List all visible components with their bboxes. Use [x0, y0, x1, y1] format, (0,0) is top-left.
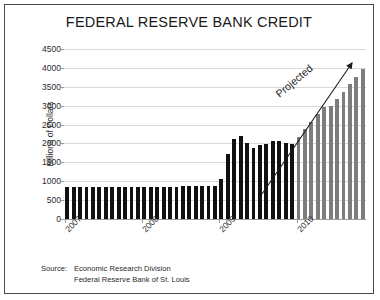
bar — [162, 187, 166, 219]
bar — [354, 77, 358, 219]
source-note: Source:Economic Research Division Federa… — [41, 263, 190, 285]
y-axis-tick-label: 4500 — [21, 44, 61, 54]
y-axis-tick-label: 1500 — [21, 157, 61, 167]
bar — [290, 144, 294, 219]
bar — [104, 187, 108, 219]
bar — [252, 148, 256, 219]
y-axis-tick-label: 2500 — [21, 120, 61, 130]
bar — [361, 69, 365, 219]
y-axis-tick-label: 1000 — [21, 176, 61, 186]
y-axis-tick-label: 3000 — [21, 101, 61, 111]
bar — [213, 186, 217, 219]
chart-frame: FEDERAL RESERVE BANK CREDIT Billions of … — [4, 4, 374, 294]
chart-title: FEDERAL RESERVE BANK CREDIT — [5, 14, 373, 30]
bar — [136, 187, 140, 219]
y-axis-tick-label: 0 — [21, 214, 61, 224]
bar — [226, 154, 230, 219]
bar — [97, 187, 101, 219]
bar — [264, 144, 268, 219]
bar — [316, 114, 320, 219]
source-label: Source: — [41, 263, 74, 274]
y-axis-tick-label: 3500 — [21, 82, 61, 92]
bar — [207, 186, 211, 219]
source-line-2: Federal Reserve Bank of St. Louis — [74, 274, 190, 285]
bar — [175, 187, 179, 219]
bar — [239, 136, 243, 219]
bar — [200, 186, 204, 219]
bar — [168, 187, 172, 219]
bar — [142, 187, 146, 219]
bar — [297, 137, 301, 219]
bar — [329, 106, 333, 219]
bar — [194, 186, 198, 219]
bar — [85, 187, 89, 219]
bar — [123, 187, 127, 219]
bar — [342, 92, 346, 219]
bar — [65, 187, 69, 219]
bar — [219, 179, 223, 219]
x-axis-tick-mark — [297, 219, 298, 223]
x-axis — [64, 219, 366, 220]
y-axis-tick-label: 2000 — [21, 138, 61, 148]
bar — [187, 186, 191, 219]
bar — [271, 141, 275, 219]
bar — [232, 139, 236, 219]
bar — [309, 122, 313, 219]
bar — [258, 145, 262, 219]
bar — [335, 99, 339, 219]
source-line-1: Economic Research Division — [74, 264, 171, 273]
bar — [284, 143, 288, 219]
bar — [155, 187, 159, 219]
y-axis-tick-label: 4000 — [21, 63, 61, 73]
bar — [277, 141, 281, 219]
bar — [181, 186, 185, 219]
plot-area: Billions of Dollars 05001000150020002500… — [64, 49, 366, 219]
bar — [78, 187, 82, 219]
bar — [348, 84, 352, 219]
bar — [245, 143, 249, 219]
bar — [117, 187, 121, 219]
bar — [91, 187, 95, 219]
y-axis-tick-label: 500 — [21, 195, 61, 205]
bar — [110, 187, 114, 219]
bar — [130, 187, 134, 219]
bar-series — [64, 49, 366, 219]
bar — [322, 107, 326, 219]
bar — [303, 129, 307, 219]
